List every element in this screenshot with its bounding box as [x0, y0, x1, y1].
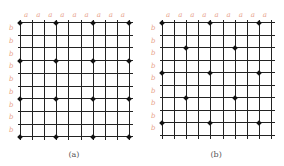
column-spacing-label: a: [263, 12, 267, 19]
grid-vertical-line: [235, 20, 236, 139]
column-spacing-label: a: [72, 12, 76, 19]
panel-caption: (b): [210, 150, 221, 159]
row-spacing-label: b: [151, 125, 155, 132]
lattice-point-marker: [159, 70, 165, 76]
row-spacing-label: b: [9, 25, 13, 32]
column-spacing-label: a: [121, 12, 125, 19]
grid-horizontal-line: [18, 86, 133, 87]
grid-horizontal-line: [18, 136, 133, 137]
column-spacing-label: a: [214, 12, 218, 19]
column-spacing-label: a: [227, 12, 231, 19]
row-spacing-label: b: [9, 63, 13, 70]
lattice-point-marker: [126, 96, 132, 102]
lattice-point-marker: [208, 120, 214, 126]
lattice-point-marker: [17, 58, 23, 64]
row-spacing-label: b: [151, 25, 155, 32]
lattice-point-marker: [90, 96, 96, 102]
column-spacing-label: a: [251, 12, 255, 19]
grid-vertical-line: [105, 20, 106, 140]
column-spacing-label: a: [166, 12, 170, 19]
row-spacing-label: b: [9, 76, 13, 83]
grid-vertical-line: [68, 20, 69, 140]
column-spacing-label: a: [239, 12, 243, 19]
lattice-point-marker: [126, 20, 132, 26]
grid-vertical-line: [20, 20, 21, 140]
grid-vertical-line: [129, 20, 130, 140]
grid-horizontal-line: [18, 35, 133, 36]
grid-horizontal-line: [160, 97, 275, 98]
row-spacing-label: b: [9, 51, 13, 58]
row-spacing-label: b: [9, 89, 13, 96]
column-spacing-label: a: [202, 12, 206, 19]
grid-vertical-line: [247, 20, 248, 139]
lattice-point-marker: [183, 45, 189, 51]
grid-horizontal-line: [18, 98, 133, 99]
grid-horizontal-line: [18, 47, 133, 48]
grid-horizontal-line: [160, 135, 275, 136]
grid-vertical-line: [44, 20, 45, 140]
grid-horizontal-line: [160, 110, 275, 111]
lattice-point-marker: [17, 96, 23, 102]
grid-horizontal-line: [160, 35, 275, 36]
grid-vertical-line: [81, 20, 82, 140]
grid-horizontal-line: [18, 60, 133, 61]
grid-horizontal-line: [160, 85, 275, 86]
grid-horizontal-line: [18, 22, 133, 23]
lattice-point-marker: [159, 120, 165, 126]
grid-vertical-line: [198, 20, 199, 139]
grid-horizontal-line: [18, 73, 133, 74]
row-spacing-label: b: [151, 75, 155, 82]
grid-vertical-line: [93, 20, 94, 140]
row-spacing-label: b: [151, 113, 155, 120]
column-spacing-label: a: [36, 12, 40, 19]
lattice-point-marker: [90, 58, 96, 64]
grid-vertical-line: [174, 20, 175, 139]
panel-caption: (a): [68, 150, 79, 159]
lattice-point-marker: [208, 70, 214, 76]
lattice-point-marker: [232, 95, 238, 101]
grid-vertical-line: [117, 20, 118, 140]
grid-vertical-line: [32, 20, 33, 140]
lattice-point-marker: [126, 134, 132, 140]
row-spacing-label: b: [9, 38, 13, 45]
grid-vertical-line: [223, 20, 224, 139]
column-spacing-label: a: [97, 12, 101, 19]
row-spacing-label: b: [151, 100, 155, 107]
grid-horizontal-line: [18, 111, 133, 112]
column-spacing-label: a: [48, 12, 52, 19]
lattice-point-marker: [53, 96, 59, 102]
grid-horizontal-line: [160, 60, 275, 61]
column-spacing-label: a: [178, 12, 182, 19]
lattice-point-marker: [256, 20, 262, 26]
lattice-point-marker: [159, 20, 165, 26]
row-spacing-label: b: [151, 38, 155, 45]
lattice-point-marker: [53, 20, 59, 26]
column-spacing-label: a: [190, 12, 194, 19]
column-spacing-label: a: [85, 12, 89, 19]
lattice-point-marker: [256, 120, 262, 126]
lattice-point-marker: [17, 20, 23, 26]
grid-vertical-line: [56, 20, 57, 140]
grid-vertical-line: [186, 20, 187, 139]
grid-horizontal-line: [18, 124, 133, 125]
lattice-point-marker: [17, 134, 23, 140]
lattice-point-marker: [256, 70, 262, 76]
row-spacing-label: b: [151, 88, 155, 95]
lattice-point-marker: [208, 20, 214, 26]
row-spacing-label: b: [151, 50, 155, 57]
lattice-point-marker: [90, 134, 96, 140]
lattice-point-marker: [53, 58, 59, 64]
lattice-point-marker: [126, 58, 132, 64]
row-spacing-label: b: [9, 102, 13, 109]
column-spacing-label: a: [24, 12, 28, 19]
lattice-point-marker: [90, 20, 96, 26]
column-spacing-label: a: [60, 12, 64, 19]
lattice-point-marker: [183, 95, 189, 101]
row-spacing-label: b: [9, 127, 13, 134]
row-spacing-label: b: [9, 114, 13, 121]
row-spacing-label: b: [151, 63, 155, 70]
column-spacing-label: a: [109, 12, 113, 19]
lattice-point-marker: [53, 134, 59, 140]
lattice-point-marker: [232, 45, 238, 51]
grid-horizontal-line: [160, 47, 275, 48]
